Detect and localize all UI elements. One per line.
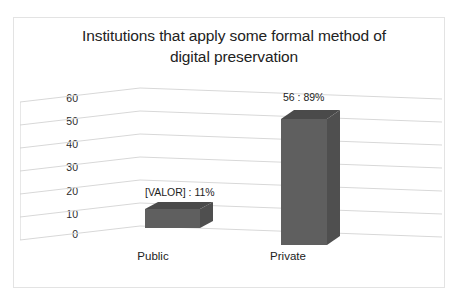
bar-public-front-face bbox=[145, 209, 200, 228]
data-label-private: 56 : 89% bbox=[283, 91, 324, 103]
gridline-30 bbox=[20, 157, 442, 171]
chart-title-line-2: digital preservation bbox=[170, 48, 298, 65]
gridline-50 bbox=[20, 111, 442, 125]
gridline-0-baseline bbox=[20, 226, 442, 240]
x-axis-label-private: Private bbox=[233, 250, 343, 262]
bar-private[interactable] bbox=[281, 110, 340, 245]
chart-title-line-1: Institutions that apply some formal meth… bbox=[82, 27, 386, 44]
gridline-40 bbox=[20, 134, 442, 148]
gridline-20 bbox=[20, 180, 442, 194]
bar-public[interactable] bbox=[145, 202, 213, 228]
x-axis-label-public: Public bbox=[98, 250, 208, 262]
gridline-10 bbox=[20, 203, 442, 217]
plot-area bbox=[20, 80, 442, 260]
chart-title: Institutions that apply some formal meth… bbox=[30, 26, 438, 67]
gridline-60 bbox=[20, 88, 442, 102]
gridlines bbox=[20, 88, 442, 240]
plot-svg bbox=[20, 80, 442, 260]
data-label-public: [VALOR] : 11% bbox=[145, 186, 215, 198]
bar-private-front-face bbox=[281, 119, 327, 245]
chart-figure: Institutions that apply some formal meth… bbox=[0, 0, 465, 302]
bar-private-side-face bbox=[327, 110, 340, 245]
